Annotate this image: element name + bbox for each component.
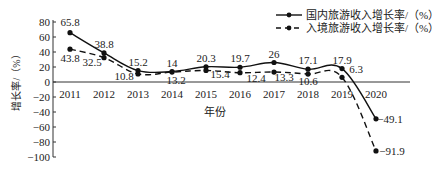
y-tick-label: 20	[39, 61, 51, 73]
data-point-marker	[339, 75, 344, 80]
data-value-label: −91.9	[379, 145, 405, 157]
data-point-marker	[339, 66, 344, 71]
legend: 国内旅游收入增长率/（%）入境旅游收入增长率/（%）	[276, 8, 439, 34]
data-value-label: 65.8	[60, 16, 80, 28]
y-tick-label: −60	[33, 121, 51, 133]
data-value-label: 20.3	[196, 52, 216, 64]
data-value-label: 6.3	[349, 63, 363, 75]
y-tick-label: −20	[33, 91, 51, 103]
y-tick-label: −100	[27, 151, 50, 163]
data-labels: 65.838.815.21420.319.72617.117.9−49.143.…	[60, 16, 405, 157]
legend-label: 入境旅游收入增长率/（%）	[306, 21, 439, 34]
y-tick-label: 0	[45, 76, 51, 88]
data-point-marker	[135, 71, 140, 76]
x-tick-label: 2014	[161, 88, 184, 100]
x-tick-label: 2016	[229, 88, 252, 100]
y-tick-label: 80	[39, 16, 51, 28]
y-axis: 806040200−20−40−60−80−100	[27, 16, 56, 163]
x-axis: 2011201220132014201520162017201820192020	[53, 82, 410, 100]
data-point-marker	[67, 47, 72, 52]
data-value-label: −49.1	[377, 113, 402, 125]
data-point-marker	[305, 67, 310, 72]
data-value-label: 15.2	[128, 56, 147, 68]
data-value-label: 32.5	[82, 56, 102, 68]
data-point-marker	[67, 30, 72, 35]
data-value-label: 13.3	[274, 71, 294, 83]
x-tick-label: 2011	[59, 88, 81, 100]
y-tick-label: 60	[39, 31, 51, 43]
x-tick-label: 2018	[297, 88, 320, 100]
data-value-label: 10.6	[298, 75, 318, 87]
data-point-marker	[101, 50, 106, 55]
data-point-marker	[237, 65, 242, 70]
data-point-marker	[203, 68, 208, 73]
data-point-marker	[101, 55, 106, 60]
x-axis-label: 年份	[204, 105, 226, 118]
x-tick-label: 2020	[365, 88, 388, 100]
data-point-marker	[237, 70, 242, 75]
y-axis-label: 增长率/（%）	[10, 49, 22, 110]
data-value-label: 19.7	[230, 52, 250, 64]
data-value-label: 38.8	[94, 38, 114, 50]
legend-label: 国内旅游收入增长率/（%）	[306, 8, 439, 21]
y-tick-label: 40	[39, 46, 51, 58]
data-value-label: 14	[167, 57, 179, 69]
data-value-label: 10.8	[114, 70, 134, 82]
legend-marker-icon	[287, 13, 292, 18]
y-tick-label: −80	[33, 136, 51, 148]
data-point-marker	[271, 60, 276, 65]
x-tick-label: 2015	[195, 88, 218, 100]
data-point-marker	[373, 148, 378, 153]
x-tick-label: 2013	[127, 88, 150, 100]
line-chart: 806040200−20−40−60−80−100 20112012201320…	[0, 0, 444, 173]
data-value-label: 12.4	[246, 72, 266, 84]
data-value-label: 13.2	[166, 74, 185, 86]
y-tick-label: −40	[33, 106, 51, 118]
data-value-label: 15.4	[210, 68, 230, 80]
data-value-label: 17.1	[298, 54, 317, 66]
data-value-label: 26	[269, 48, 281, 60]
x-tick-label: 2012	[93, 88, 115, 100]
x-tick-label: 2017	[263, 88, 286, 100]
legend-marker-icon	[287, 26, 292, 31]
data-value-label: 43.8	[60, 52, 80, 64]
